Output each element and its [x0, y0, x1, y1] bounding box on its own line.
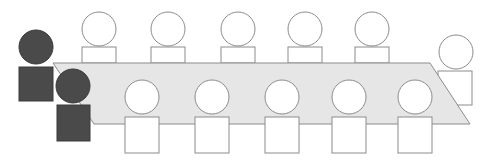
person-bottom-3: [265, 80, 299, 153]
person-body: [151, 47, 185, 63]
person-body: [398, 117, 432, 153]
person-head: [439, 35, 473, 69]
person-top-5: [355, 12, 389, 63]
person-bottom-5: [398, 80, 432, 153]
person-body: [195, 117, 229, 153]
person-body: [332, 117, 366, 153]
person-head: [19, 30, 53, 64]
person-head: [125, 80, 159, 114]
person-body: [125, 117, 159, 153]
person-top-2: [151, 12, 185, 63]
person-top-4: [288, 12, 322, 63]
diagram-canvas: [0, 0, 488, 160]
person-body: [355, 47, 389, 63]
person-head: [398, 80, 432, 114]
person-head: [56, 69, 90, 103]
person-body: [57, 105, 90, 141]
person-body: [288, 47, 322, 63]
person-top-1: [82, 12, 116, 63]
person-body: [265, 117, 299, 153]
person-head: [332, 80, 366, 114]
person-bottom-1: [125, 80, 159, 153]
person-body: [221, 47, 255, 63]
person-top-3: [221, 12, 255, 63]
person-end-left-1: [19, 30, 53, 101]
seating-diagram: [0, 0, 488, 160]
person-head: [151, 12, 185, 46]
person-head: [82, 12, 116, 46]
person-head: [288, 12, 322, 46]
person-head: [221, 12, 255, 46]
person-body: [82, 47, 116, 63]
person-bottom-4: [332, 80, 366, 153]
person-head: [195, 80, 229, 114]
person-head: [355, 12, 389, 46]
person-end-left-2: [56, 69, 90, 141]
person-head: [265, 80, 299, 114]
person-bottom-2: [195, 80, 229, 153]
person-body: [19, 67, 53, 101]
